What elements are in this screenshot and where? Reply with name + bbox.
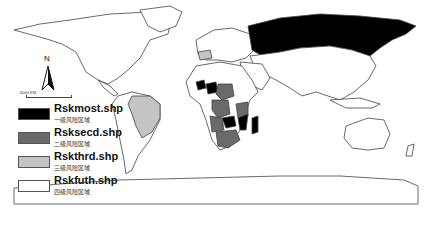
australia [344,118,390,150]
asia [250,46,376,100]
legend-swatch [18,108,50,120]
legend-sublabel: 一级风险区域 [54,115,90,124]
legend-swatch [18,132,50,144]
legend: Rskmost.shp 一级风险区域 Rsksecd.shp 二级风险区域 Rs… [10,104,130,200]
legend-item-level2: Rsksecd.shp 二级风险区域 [10,128,130,152]
south-africa-level2 [216,130,240,148]
legend-sublabel: 四级风险区域 [54,187,90,196]
legend-item-level4: Rskfuth.shp 四级风险区域 [10,176,130,200]
north-arrow-icon [34,64,62,92]
angola-level2 [210,116,224,132]
legend-label: Rskfuth.shp [54,174,118,186]
iberia-level3 [198,50,212,60]
legend-sublabel: 三级风险区域 [54,163,90,172]
scale-bar [26,95,72,98]
west-africa-level1 [196,80,206,90]
legend-label: Rskthrd.shp [54,150,118,162]
new-zealand [406,144,414,156]
legend-item-level1: Rskmost.shp 一级风险区域 [10,104,130,128]
legend-label: Rskmost.shp [54,102,123,114]
legend-swatch [18,156,50,168]
legend-item-level3: Rskthrd.shp 三级风险区域 [10,152,130,176]
madagascar-level1 [252,116,258,134]
north-label: N [44,54,50,63]
legend-swatch [18,180,50,192]
indonesia [330,98,380,108]
legend-sublabel: 二级风险区域 [54,139,90,148]
legend-label: Rsksecd.shp [54,126,122,138]
